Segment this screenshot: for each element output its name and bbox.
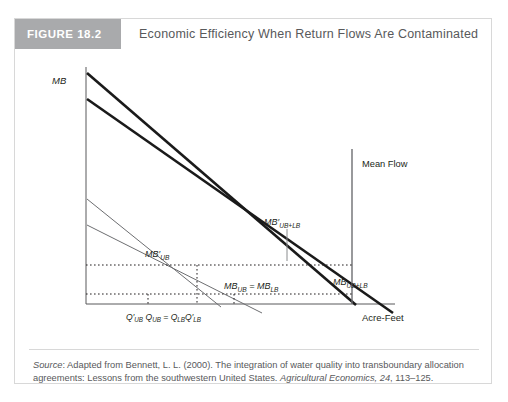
figure-header: FIGURE 18.2 Economic Efficiency When Ret… <box>15 19 491 49</box>
source-note: Source: Adapted from Bennett, L. L. (200… <box>33 359 475 385</box>
mb-ub-equals-mb-lb-label: MBUB = MBLB <box>224 281 279 293</box>
chart-area: MB Acre-Feet Mean Flow MB′UB+LB MB′UB MB… <box>15 49 493 349</box>
x-axis-label: Acre-Feet <box>362 312 404 323</box>
source-journal: Agricultural Economics, 24 <box>280 373 390 383</box>
figure-container: FIGURE 18.2 Economic Efficiency When Ret… <box>14 18 492 384</box>
source-divider <box>29 349 479 350</box>
figure-title: Economic Efficiency When Return Flows Ar… <box>139 19 478 49</box>
source-label: Source <box>33 360 62 370</box>
mb-ub-lb-label: MBUB+LB <box>333 277 368 289</box>
figure-number-tag: FIGURE 18.2 <box>15 19 121 49</box>
economic-efficiency-chart: MB Acre-Feet Mean Flow MB′UB+LB MB′UB MB… <box>15 49 493 349</box>
source-text-part-2: , 113–125. <box>390 373 433 383</box>
quantity-tick-labels: Q′UB QUB = QLBQ′LB <box>126 312 201 323</box>
mb-prime-ub-lb-label: MB′UB+LB <box>264 217 301 229</box>
mb-prime-ub-label: MB′UB <box>145 249 170 261</box>
mb-ub-eq-lb-line <box>87 225 262 313</box>
y-axis-label: MB <box>52 75 67 86</box>
mb-prime-ub-lb-line <box>87 73 356 305</box>
mean-flow-label: Mean Flow <box>362 159 408 169</box>
